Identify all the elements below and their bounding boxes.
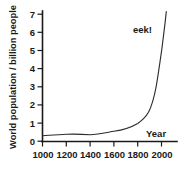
y-tick-label-7: 7 [30,9,35,20]
chart-canvas: 7 6 5 4 3 2 1 0 1000 1200 1400 1600 1800… [0,0,183,171]
x-tick-label-1200: 1200 [56,149,77,160]
x-axis-title: Year [146,128,166,139]
x-tick-label-1000: 1000 [32,149,53,160]
y-tick-label-3: 3 [30,81,35,92]
eek-annotation: eek! [133,24,152,35]
y-axis-title: World population / billion people [8,5,18,149]
y-tick-label-5: 5 [30,45,36,56]
x-tick-label-1800: 1800 [127,149,148,160]
y-tick-label-0: 0 [30,136,35,147]
x-tick-label-1600: 1600 [104,149,125,160]
x-tick-label-1400: 1400 [80,149,101,160]
y-tick-label-2: 2 [30,99,35,110]
population-growth-chart: 7 6 5 4 3 2 1 0 1000 1200 1400 1600 1800… [0,0,183,171]
y-tick-label-6: 6 [30,27,35,38]
x-axis-tick-labels: 1000 1200 1400 1600 1800 2000 [32,149,172,160]
y-tick-label-1: 1 [30,118,36,129]
y-axis-tick-labels: 7 6 5 4 3 2 1 0 [30,9,36,147]
x-tick-label-2000: 2000 [151,149,172,160]
y-tick-label-4: 4 [30,63,36,74]
